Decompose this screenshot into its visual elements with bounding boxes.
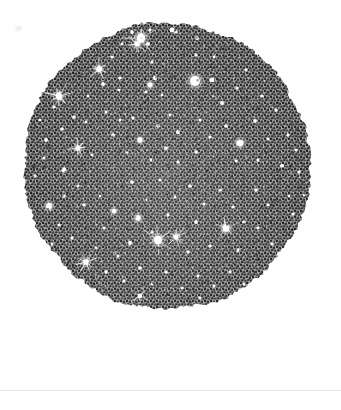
micro-highlight bbox=[233, 243, 234, 244]
ink-fleck bbox=[253, 57, 255, 58]
ink-fleck bbox=[211, 214, 212, 215]
ink-fleck bbox=[225, 69, 227, 71]
micro-highlight bbox=[71, 174, 72, 175]
micro-highlight bbox=[138, 266, 139, 268]
ink-fleck bbox=[119, 112, 120, 114]
micro-highlight bbox=[212, 137, 213, 139]
micro-highlight bbox=[159, 213, 160, 215]
micro-highlight bbox=[42, 197, 43, 199]
ink-fleck bbox=[270, 229, 272, 230]
ink-fleck bbox=[181, 174, 182, 176]
star-dot bbox=[266, 204, 269, 207]
micro-highlight bbox=[101, 225, 102, 226]
micro-highlight bbox=[284, 125, 285, 126]
ink-fleck bbox=[127, 68, 128, 69]
ink-fleck bbox=[102, 70, 103, 71]
micro-highlight bbox=[138, 105, 139, 106]
ink-fleck bbox=[169, 177, 170, 178]
micro-highlight bbox=[29, 161, 30, 162]
ink-fleck bbox=[126, 153, 127, 155]
ink-fleck bbox=[203, 296, 205, 298]
micro-highlight bbox=[109, 39, 111, 40]
star-marker bbox=[208, 135, 212, 138]
micro-highlight bbox=[204, 194, 205, 195]
micro-highlight bbox=[100, 58, 101, 59]
micro-highlight bbox=[85, 174, 86, 175]
ink-fleck bbox=[281, 222, 282, 223]
micro-highlight bbox=[239, 92, 240, 93]
ink-fleck bbox=[305, 166, 307, 168]
ink-fleck bbox=[145, 279, 146, 281]
star-dot bbox=[188, 184, 192, 187]
micro-highlight bbox=[211, 156, 212, 157]
ink-fleck bbox=[162, 200, 163, 202]
micro-highlight bbox=[71, 91, 72, 92]
micro-highlight bbox=[32, 163, 33, 164]
ink-fleck bbox=[150, 230, 151, 231]
micro-highlight bbox=[261, 102, 262, 103]
micro-highlight bbox=[83, 148, 85, 149]
ink-fleck bbox=[185, 275, 186, 277]
ink-fleck bbox=[102, 234, 103, 235]
ink-fleck bbox=[146, 258, 147, 259]
ink-fleck bbox=[197, 139, 199, 141]
ink-fleck bbox=[205, 228, 206, 230]
ink-fleck bbox=[130, 219, 132, 220]
star-marker bbox=[128, 241, 132, 246]
ink-fleck bbox=[147, 103, 148, 104]
micro-highlight bbox=[122, 289, 123, 290]
ink-fleck bbox=[256, 250, 258, 251]
micro-highlight bbox=[207, 77, 209, 78]
ink-fleck bbox=[296, 156, 297, 158]
ink-fleck bbox=[175, 191, 176, 193]
micro-highlight bbox=[70, 140, 71, 141]
micro-highlight bbox=[307, 181, 308, 183]
ink-fleck bbox=[169, 201, 171, 203]
ink-fleck bbox=[214, 157, 216, 159]
star-marker bbox=[51, 242, 54, 245]
micro-highlight bbox=[183, 274, 184, 275]
ink-fleck bbox=[238, 270, 239, 272]
ink-fleck bbox=[45, 167, 46, 169]
micro-highlight bbox=[98, 123, 99, 124]
ink-fleck bbox=[155, 220, 156, 221]
micro-highlight bbox=[60, 212, 61, 213]
micro-highlight bbox=[288, 167, 290, 168]
ink-fleck bbox=[274, 203, 276, 204]
micro-highlight bbox=[291, 100, 292, 101]
micro-highlight bbox=[104, 185, 105, 186]
ink-fleck bbox=[217, 183, 218, 185]
ink-fleck bbox=[79, 211, 81, 213]
micro-highlight bbox=[227, 218, 228, 219]
micro-highlight bbox=[43, 173, 44, 175]
micro-highlight bbox=[127, 224, 128, 225]
ink-fleck bbox=[267, 116, 269, 117]
micro-highlight bbox=[142, 243, 144, 244]
micro-highlight bbox=[178, 76, 179, 77]
ink-fleck bbox=[81, 152, 82, 154]
ink-fleck bbox=[247, 69, 249, 71]
ink-fleck bbox=[120, 69, 121, 70]
ink-fleck bbox=[208, 47, 210, 49]
ink-fleck bbox=[65, 218, 66, 219]
ink-fleck bbox=[145, 101, 147, 102]
micro-highlight bbox=[252, 264, 253, 266]
ink-fleck bbox=[206, 171, 207, 173]
ink-fleck bbox=[157, 284, 158, 286]
ink-fleck bbox=[55, 116, 56, 118]
ink-fleck bbox=[225, 236, 227, 237]
micro-highlight bbox=[174, 183, 175, 184]
ink-fleck bbox=[34, 197, 36, 198]
micro-highlight bbox=[71, 172, 72, 173]
ink-fleck bbox=[144, 56, 146, 57]
micro-highlight bbox=[113, 106, 114, 107]
ink-fleck bbox=[60, 214, 61, 216]
micro-highlight bbox=[174, 46, 175, 47]
micro-highlight bbox=[191, 117, 192, 118]
micro-highlight bbox=[174, 63, 175, 64]
micro-highlight bbox=[41, 207, 42, 209]
micro-highlight bbox=[106, 101, 108, 102]
ink-fleck bbox=[113, 249, 115, 250]
star-dot bbox=[122, 279, 125, 283]
ink-fleck bbox=[167, 81, 169, 83]
